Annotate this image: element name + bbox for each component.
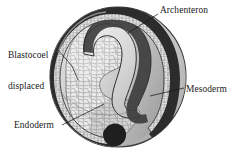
label-archenteron: Archenteron bbox=[160, 5, 208, 15]
label-endoderm: Endoderm bbox=[14, 120, 54, 130]
label-blastocoel-line1: Blastocoel bbox=[8, 50, 49, 60]
label-blastocoel-displaced: Blastocoel displaced bbox=[8, 29, 49, 112]
blastopore bbox=[103, 124, 126, 157]
label-blastocoel-line2: displaced bbox=[8, 81, 49, 91]
figure-canvas: Archenteron Blastocoel displaced Mesoder… bbox=[0, 0, 246, 158]
label-mesoderm: Mesoderm bbox=[186, 84, 227, 94]
